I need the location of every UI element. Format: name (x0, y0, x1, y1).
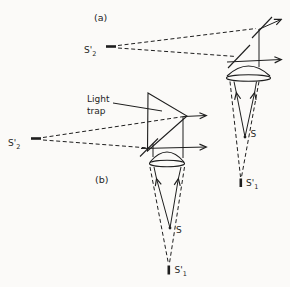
source-point-a (244, 136, 247, 139)
optics-diagram: (a) S'2 S S'1 (b (0, 0, 290, 287)
source-point-b (169, 227, 172, 230)
light-trap-label-line2: trap (87, 106, 106, 116)
panel-a-label: (a) (94, 12, 107, 23)
light-trap-label-line1: Light (87, 94, 110, 104)
paper-background (0, 0, 290, 287)
source-label-b: S (176, 225, 182, 235)
source-label-a: S (251, 129, 257, 139)
panel-b-label: (b) (95, 174, 108, 185)
